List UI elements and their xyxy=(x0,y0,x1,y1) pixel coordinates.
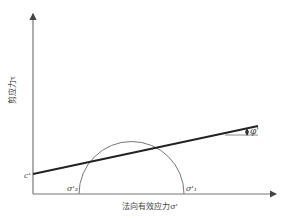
sigma3-label: σ'₃ xyxy=(67,184,78,193)
mohr-coulomb-diagram: φ' c' σ'₃ σ'₁ 法向有效应力σ' 剪应力τ xyxy=(0,0,290,218)
y-axis-label: 剪应力τ xyxy=(7,75,17,104)
x-axis-label: 法向有效应力σ' xyxy=(122,201,178,211)
sigma1-label: σ'₁ xyxy=(186,184,197,193)
cohesion-label: c' xyxy=(24,171,31,180)
friction-angle-label: φ' xyxy=(250,126,259,136)
mohr-circle xyxy=(79,142,184,194)
failure-envelope-line xyxy=(33,126,258,174)
